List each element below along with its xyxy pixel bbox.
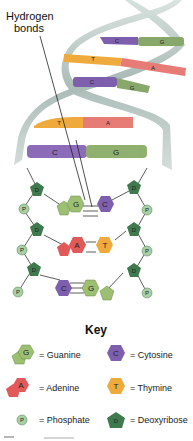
svg-text:= Guanine: = Guanine — [39, 350, 81, 360]
svg-text:G: G — [113, 148, 119, 157]
svg-text:Hydrogen: Hydrogen — [6, 10, 54, 22]
svg-text:C: C — [52, 148, 58, 157]
helix-rung-5: C G — [27, 145, 147, 158]
dna-diagram: C G T A C G T A C G Hydrogen bonds — [0, 0, 193, 441]
svg-text:T: T — [114, 382, 119, 391]
svg-text:bonds: bonds — [14, 22, 44, 34]
svg-text:A: A — [151, 65, 155, 71]
svg-text:= Cytosine: = Cytosine — [130, 350, 173, 360]
key-adenine: A = Adenine — [6, 378, 79, 397]
svg-text:D: D — [114, 418, 119, 424]
svg-text:D: D — [132, 268, 137, 274]
svg-text:T: T — [57, 120, 61, 126]
cutoff-caption — [4, 436, 74, 439]
base-pair-g-c: G C — [57, 196, 114, 215]
svg-text:D: D — [132, 227, 137, 233]
svg-text:G: G — [130, 85, 135, 91]
key: Key G = Guanine C = Cytosine A = Adenine… — [6, 323, 188, 428]
base-pair-c-g: C G — [55, 280, 114, 300]
svg-text:P: P — [145, 290, 149, 296]
svg-text:D: D — [132, 185, 137, 191]
svg-text:C: C — [113, 349, 119, 358]
svg-text:G: G — [23, 348, 29, 357]
svg-text:G: G — [88, 284, 94, 293]
svg-text:= Phosphate: = Phosphate — [39, 415, 90, 425]
svg-text:= Deoxyribose: = Deoxyribose — [130, 415, 188, 425]
svg-text:C: C — [61, 284, 67, 293]
svg-text:D: D — [35, 227, 40, 233]
svg-text:T: T — [91, 56, 95, 62]
svg-text:Key: Key — [85, 323, 107, 337]
svg-text:= Thymine: = Thymine — [130, 383, 172, 393]
base-pair-a-t: A T — [57, 237, 113, 256]
svg-text:= Adenine: = Adenine — [39, 383, 79, 393]
svg-text:C: C — [102, 200, 108, 209]
key-cytosine: C = Cytosine — [107, 345, 173, 361]
svg-text:P: P — [20, 247, 24, 253]
key-deoxyribose: D = Deoxyribose — [107, 412, 188, 428]
svg-text:T: T — [103, 241, 108, 250]
svg-text:D: D — [35, 187, 40, 193]
svg-text:P: P — [20, 417, 24, 423]
svg-text:A: A — [18, 381, 24, 390]
svg-text:P: P — [16, 289, 20, 295]
svg-text:C: C — [90, 79, 95, 85]
svg-text:A: A — [106, 120, 110, 126]
svg-text:G: G — [160, 39, 165, 45]
svg-text:G: G — [73, 200, 79, 209]
key-phosphate: P = Phosphate — [17, 415, 90, 425]
deoxyribose-sugars: D D D D D D — [27, 180, 141, 277]
svg-text:D: D — [32, 267, 37, 273]
svg-text:C: C — [115, 38, 120, 44]
key-guanine: G = Guanine — [12, 345, 81, 364]
svg-text:P: P — [22, 206, 26, 212]
svg-text:P: P — [145, 207, 149, 213]
key-thymine: T = Thymine — [107, 378, 172, 394]
svg-text:P: P — [145, 248, 149, 254]
svg-text:A: A — [74, 241, 80, 250]
helix-rung-4: T A — [34, 117, 133, 128]
helix-rung-1: C G — [100, 37, 184, 46]
